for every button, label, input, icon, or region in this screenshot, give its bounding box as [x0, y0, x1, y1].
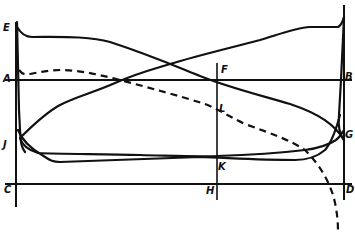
- label-D: D: [346, 184, 354, 195]
- label-A: A: [2, 73, 11, 84]
- label-C: C: [4, 184, 12, 195]
- label-B: B: [345, 71, 353, 82]
- label-E: E: [3, 22, 10, 33]
- curve-J-to-top-right: [20, 17, 344, 138]
- label-G: G: [345, 129, 353, 140]
- label-L: L: [219, 103, 225, 114]
- indicator-diagram: E A J C F L K H B G D: [0, 0, 355, 235]
- label-K: K: [218, 161, 227, 172]
- label-H: H: [206, 185, 215, 196]
- label-J: J: [1, 139, 7, 150]
- curve-E-to-G: [17, 27, 344, 140]
- label-F: F: [221, 64, 228, 75]
